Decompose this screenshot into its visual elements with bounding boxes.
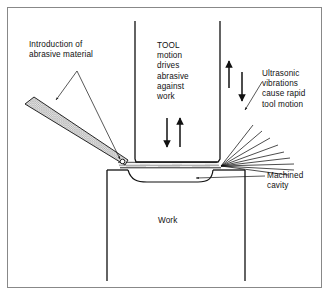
label-work: Work xyxy=(158,216,177,226)
diagram-page: Introduction of abrasive material TOOL m… xyxy=(0,0,330,296)
abrasive-feed-band xyxy=(25,97,128,165)
label-ultrasonic-vibrations: Ultrasonic vibrations cause rapid tool m… xyxy=(262,69,305,110)
label-machined-cavity: Machined cavity xyxy=(267,171,303,191)
leader-line xyxy=(56,71,77,100)
abrasive-slurry-gap xyxy=(118,162,221,168)
label-abrasive-introduction: Introduction of abrasive material xyxy=(29,40,93,60)
machined-cavity xyxy=(128,170,213,182)
vibration-ray-fan xyxy=(221,125,294,175)
label-tool-motion: TOOL motion drives abrasive against work xyxy=(157,41,189,102)
side-motion-arrows xyxy=(229,61,242,101)
leader-line xyxy=(245,82,262,110)
